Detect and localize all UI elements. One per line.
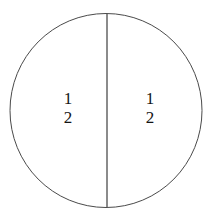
fraction-numerator: 1 [144,90,157,108]
fraction-denominator: 2 [144,108,157,126]
diagram-canvas [0,0,221,218]
fraction-label-right-half: 1 2 [135,90,165,126]
fraction-denominator: 2 [62,108,75,126]
fraction-label-left-half: 1 2 [53,90,83,126]
fraction-numerator: 1 [62,90,75,108]
circle-outline [10,14,202,208]
circle-fraction-diagram: 1 2 1 2 [0,0,221,218]
